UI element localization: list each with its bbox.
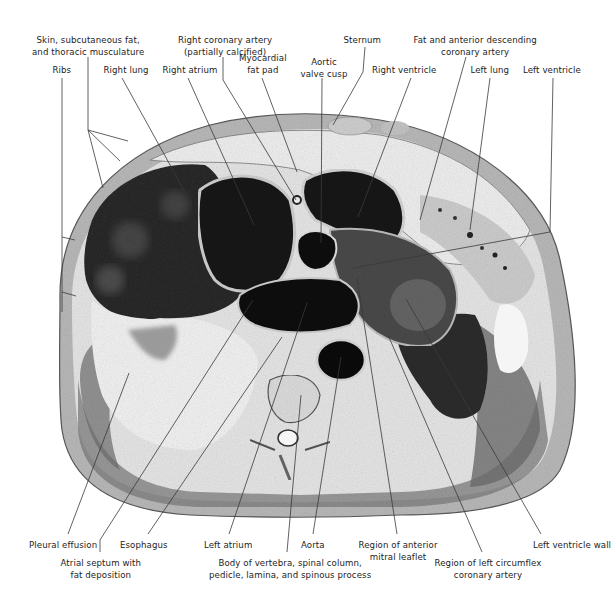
- leader-lines: [0, 0, 612, 615]
- label-line: Aortic: [301, 57, 348, 69]
- label-line: Aorta: [301, 540, 325, 552]
- leader-right-atrium: [188, 78, 254, 225]
- leader-myocardial-fat: [262, 78, 297, 172]
- leader-right-coronary: [223, 57, 296, 200]
- leader-left-lung: [470, 78, 490, 230]
- label-aorta: Aorta: [301, 540, 325, 552]
- label-ribs: Ribs: [53, 65, 72, 77]
- leader-left-atrium: [229, 303, 307, 534]
- leader-vertebra: [287, 395, 301, 552]
- label-aortic-valve: Aorticvalve cusp: [301, 57, 348, 80]
- label-line: Ribs: [53, 65, 72, 77]
- thorax-cross-section-figure: Skin, subcutaneous fat,and thoracic musc…: [0, 0, 612, 615]
- label-line: Fat and anterior descending: [414, 35, 537, 47]
- label-left-ventricle: Left ventricle: [523, 65, 581, 77]
- leader-pleural-effusion: [68, 373, 129, 534]
- leader-aortic-valve: [321, 78, 322, 243]
- label-line: Pleural effusion: [29, 540, 97, 552]
- label-line: Sternum: [344, 35, 381, 47]
- label-left-atrium: Left atrium: [204, 540, 252, 552]
- label-vertebra: Body of vertebra, spinal column,pedicle,…: [209, 558, 371, 581]
- label-line: coronary artery: [435, 570, 542, 582]
- label-fat-lad: Fat and anterior descendingcoronary arte…: [414, 35, 537, 58]
- label-line: Right coronary artery: [178, 35, 272, 47]
- label-line: Left atrium: [204, 540, 252, 552]
- label-line: and thoracic musculature: [32, 47, 144, 59]
- leader-right-ventricle: [358, 78, 411, 217]
- label-esophagus: Esophagus: [120, 540, 168, 552]
- leader-aorta: [313, 357, 341, 534]
- leader-fat-lad: [420, 57, 466, 220]
- label-left-lung: Left lung: [471, 65, 510, 77]
- label-line: Body of vertebra, spinal column,: [209, 558, 371, 570]
- label-line: Right ventricle: [372, 65, 436, 77]
- leader-right-lung: [122, 78, 185, 192]
- leader-skin-3: [88, 130, 103, 188]
- leader-ribs-tick-1: [62, 237, 75, 240]
- leader-lv-wall: [406, 299, 541, 534]
- label-line: Skin, subcutaneous fat,: [32, 35, 144, 47]
- label-line: Region of left circumflex: [435, 558, 542, 570]
- label-line: coronary artery: [414, 47, 537, 59]
- label-right-lung: Right lung: [104, 65, 149, 77]
- leader-left-ventricle: [353, 78, 553, 268]
- label-line: Right lung: [104, 65, 149, 77]
- label-atrial-septum: Atrial septum withfat deposition: [61, 558, 142, 581]
- label-right-atrium: Right atrium: [163, 65, 218, 77]
- label-circumflex: Region of left circumflexcoronary artery: [435, 558, 542, 581]
- label-pleural-effusion: Pleural effusion: [29, 540, 97, 552]
- label-line: fat pad: [239, 65, 287, 77]
- leader-circumflex: [388, 335, 482, 552]
- label-sternum: Sternum: [344, 35, 381, 47]
- label-line: pedicle, lamina, and spinous process: [209, 570, 371, 582]
- label-lv-wall: Left ventricle wall: [533, 540, 611, 552]
- label-line: Left ventricle: [523, 65, 581, 77]
- label-line: valve cusp: [301, 69, 348, 81]
- label-line: Atrial septum with: [61, 558, 142, 570]
- label-line: Left lung: [471, 65, 510, 77]
- leader-atrial-septum: [100, 300, 253, 552]
- leader-anterior-mitral: [357, 278, 397, 534]
- label-line: Esophagus: [120, 540, 168, 552]
- label-right-ventricle: Right ventricle: [372, 65, 436, 77]
- leader-ribs-tick-2: [62, 292, 76, 296]
- label-line: Right atrium: [163, 65, 218, 77]
- label-line: Myocardial: [239, 53, 287, 65]
- label-line: fat deposition: [61, 570, 142, 582]
- label-line: Left ventricle wall: [533, 540, 611, 552]
- label-skin: Skin, subcutaneous fat,and thoracic musc…: [32, 35, 144, 58]
- label-myocardial-fat: Myocardialfat pad: [239, 53, 287, 76]
- label-line: Region of anterior: [359, 540, 438, 552]
